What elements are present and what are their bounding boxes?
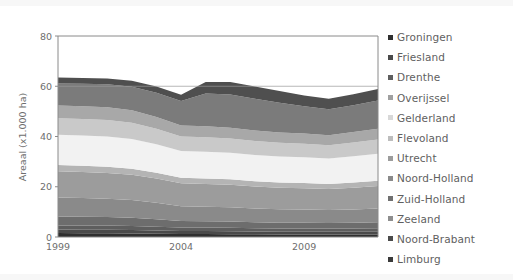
x-tick-label-2004: 2004	[169, 241, 193, 252]
legend-swatch-icon	[388, 95, 393, 100]
x-tick-label-2009: 2009	[292, 241, 316, 252]
legend-item-label: Utrecht	[397, 152, 437, 164]
legend-item-limburg[interactable]: Limburg	[388, 249, 513, 269]
legend-swatch-icon	[388, 115, 393, 120]
legend-swatch-icon	[388, 75, 393, 80]
legend-swatch-icon	[388, 216, 393, 221]
legend-item-label: Gelderland	[397, 112, 456, 124]
x-tick-group: 199920042009	[46, 241, 316, 252]
x-tick-label-1999: 1999	[46, 241, 70, 252]
legend-item-overijssel[interactable]: Overijssel	[388, 88, 513, 108]
legend-item-utrecht[interactable]: Utrecht	[388, 148, 513, 168]
y-tick-label-60: 60	[40, 81, 52, 92]
legend-item-zeeland[interactable]: Zeeland	[388, 209, 513, 229]
legend-swatch-icon	[388, 236, 393, 241]
legend-item-label: Groningen	[397, 31, 453, 43]
chart-figure: 020406080 199920042009 Areaal (x1.000 ha…	[0, 0, 513, 280]
legend-item-label: Flevoland	[397, 132, 449, 144]
legend-swatch-icon	[388, 176, 393, 181]
legend-swatch-icon	[388, 136, 393, 141]
legend-item-label: Zuid-Holland	[397, 193, 465, 205]
chart-legend: GroningenFrieslandDrentheOverijsselGelde…	[388, 27, 513, 269]
legend-item-noord-brabant[interactable]: Noord-Brabant	[388, 229, 513, 249]
y-axis-label: Areaal (x1.000 ha)	[17, 93, 28, 181]
y-tick-label-20: 20	[40, 181, 52, 192]
legend-item-label: Overijssel	[397, 92, 449, 104]
area-series-group	[58, 77, 378, 237]
legend-item-flevoland[interactable]: Flevoland	[388, 128, 513, 148]
legend-item-label: Drenthe	[397, 71, 440, 83]
legend-item-label: Noord-Holland	[397, 172, 474, 184]
y-tick-label-80: 80	[40, 31, 52, 42]
legend-item-label: Friesland	[397, 51, 445, 63]
legend-item-label: Limburg	[397, 253, 441, 265]
legend-swatch-icon	[388, 156, 393, 161]
legend-item-noord-holland[interactable]: Noord-Holland	[388, 168, 513, 188]
legend-item-label: Zeeland	[397, 213, 440, 225]
legend-item-drenthe[interactable]: Drenthe	[388, 67, 513, 87]
legend-swatch-icon	[388, 55, 393, 60]
legend-item-friesland[interactable]: Friesland	[388, 47, 513, 67]
legend-swatch-icon	[388, 196, 393, 201]
legend-item-groningen[interactable]: Groningen	[388, 27, 513, 47]
legend-swatch-icon	[388, 257, 393, 262]
legend-item-gelderland[interactable]: Gelderland	[388, 108, 513, 128]
legend-item-zuid-holland[interactable]: Zuid-Holland	[388, 189, 513, 209]
legend-item-label: Noord-Brabant	[397, 233, 475, 245]
legend-swatch-icon	[388, 35, 393, 40]
y-tick-label-40: 40	[40, 131, 52, 142]
y-tick-group: 020406080	[40, 31, 58, 243]
